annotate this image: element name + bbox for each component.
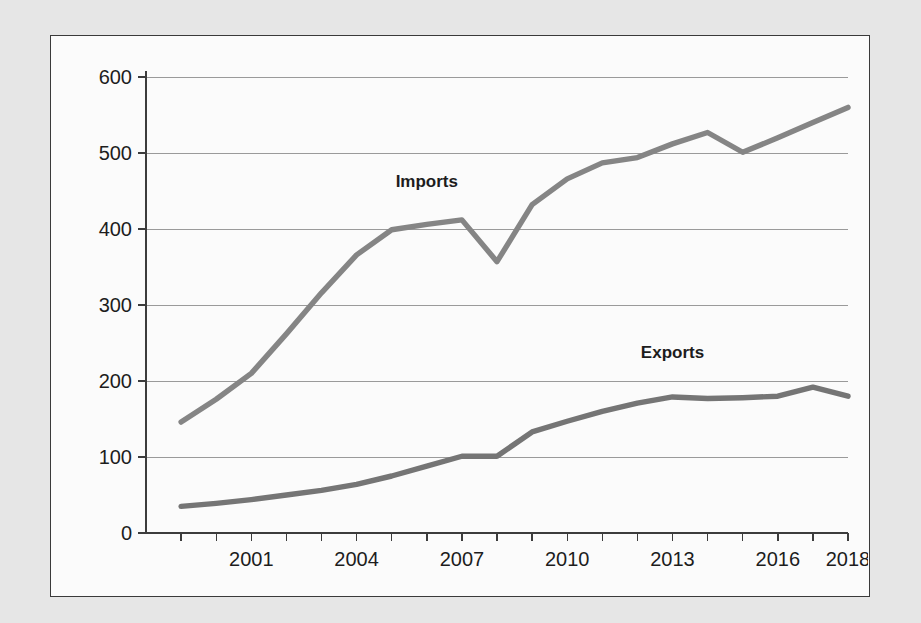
xtick-label-2018: 2018 (826, 548, 868, 570)
xtick-label-2010: 2010 (545, 548, 590, 570)
ytick-label-0: 0 (121, 522, 132, 544)
ytick-label-200: 200 (99, 370, 132, 392)
ytick-label-500: 500 (99, 142, 132, 164)
xtick-label-2001: 2001 (229, 548, 273, 570)
xtick-label-2007: 2007 (440, 548, 485, 570)
line-chart: 0100200300400500600200120042007201020132… (51, 36, 868, 595)
chart-page: 0100200300400500600200120042007201020132… (0, 0, 921, 623)
ytick-label-100: 100 (99, 446, 132, 468)
series-line-exports (181, 387, 848, 506)
ytick-label-300: 300 (99, 294, 132, 316)
series-label-exports: Exports (641, 343, 704, 362)
xtick-label-2004: 2004 (334, 548, 379, 570)
ytick-label-600: 600 (99, 66, 132, 88)
xtick-label-2016: 2016 (756, 548, 801, 570)
chart-frame: 0100200300400500600200120042007201020132… (50, 35, 870, 597)
ytick-label-400: 400 (99, 218, 132, 240)
series-line-imports (181, 107, 848, 422)
series-label-imports: Imports (396, 172, 458, 191)
xtick-label-2013: 2013 (650, 548, 695, 570)
